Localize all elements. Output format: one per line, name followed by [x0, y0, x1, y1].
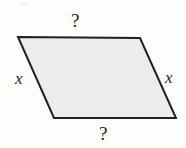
parallelogram-shape: [18, 37, 176, 118]
geometry-figure: ? ? x x: [0, 0, 186, 148]
parallelogram-drawing: [0, 0, 186, 148]
side-label-right: x: [165, 69, 173, 86]
side-label-top: ?: [71, 11, 79, 30]
side-label-left: x: [15, 70, 23, 87]
side-label-bottom: ?: [99, 124, 107, 143]
